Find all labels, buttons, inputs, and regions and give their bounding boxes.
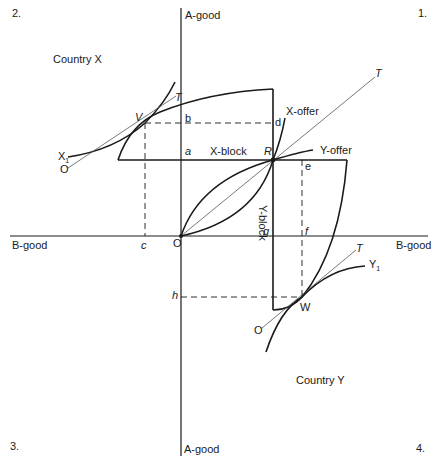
point-r (271, 158, 276, 163)
b-good-left-label: B-good (12, 240, 47, 251)
point-r-label: R (264, 146, 272, 157)
y1-label: Y1 (369, 259, 380, 272)
trade-diagram (0, 0, 436, 463)
y-block (273, 160, 347, 310)
o-x-label: O (60, 164, 69, 175)
origin-label: O (173, 238, 182, 249)
point-a-label: a (185, 146, 191, 157)
x-offer-label: X-offer (286, 106, 319, 117)
quadrant-2-label: 2. (12, 8, 21, 19)
point-c-label: c (141, 240, 147, 251)
b-good-right-label: B-good (396, 240, 431, 251)
country-x-label: Country X (53, 54, 102, 65)
y-offer-curve (273, 150, 313, 160)
point-b-label: b (185, 113, 191, 124)
point-f-label: f (305, 226, 308, 237)
a-good-top-label: A-good (185, 10, 220, 21)
x-block-label: X-block (210, 146, 247, 157)
point-v-label: V (135, 112, 142, 123)
point-d-label: d (275, 117, 281, 128)
a-good-bottom-label: A-good (184, 444, 219, 455)
x-price-line (68, 96, 176, 168)
point-h-label: h (172, 290, 178, 301)
y-offer-label: Y-offer (320, 145, 352, 156)
country-y-label: Country Y (296, 375, 345, 386)
point-e-label: e (305, 161, 311, 172)
quadrant-4-label: 4. (416, 443, 425, 454)
quadrant-3-label: 3. (10, 441, 19, 452)
o-y-label: O (254, 325, 263, 336)
x1-label: X1 (58, 151, 69, 164)
x-indifference-curve (68, 82, 175, 157)
quadrant-1-label: 1. (418, 8, 427, 19)
point-w-label: W (300, 302, 310, 313)
t-main-label: T (375, 68, 382, 79)
t-x-label: T (175, 92, 182, 103)
x-block (118, 89, 273, 160)
t-y-label: T (356, 243, 363, 254)
point-g-label: g (263, 226, 269, 237)
y-price-line (262, 250, 356, 328)
